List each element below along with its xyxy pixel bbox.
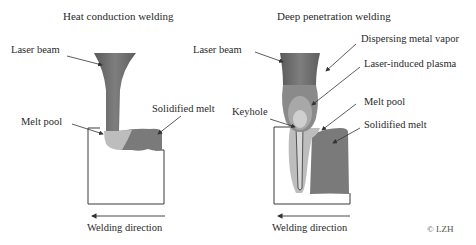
copyright-notice: © LZH <box>427 224 454 234</box>
label-solidified-melt-left: Solidified melt <box>152 104 215 115</box>
label-melt-pool-right: Melt pool <box>364 97 405 108</box>
right-workpiece <box>274 126 350 204</box>
label-melt-pool-left: Melt pool <box>21 117 62 128</box>
label-laser-beam-left: Laser beam <box>11 45 60 56</box>
label-laser-induced-plasma: Laser-induced plasma <box>364 59 456 70</box>
label-laser-beam-right: Laser beam <box>193 45 242 56</box>
right-laser-beam <box>280 53 320 85</box>
label-solidified-melt-right: Solidified melt <box>364 120 427 131</box>
label-keyhole: Keyhole <box>232 107 268 118</box>
label-dispersing-metal-vapor: Dispersing metal vapor <box>361 34 459 45</box>
left-workpiece <box>88 128 164 204</box>
label-welding-direction-left: Welding direction <box>87 223 162 234</box>
label-welding-direction-right: Welding direction <box>272 223 347 234</box>
